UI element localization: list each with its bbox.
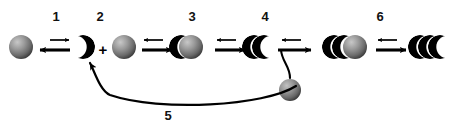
sphere-second <box>112 35 136 59</box>
recycle-arc-path <box>90 63 296 105</box>
recycle-arc-step5 <box>90 63 296 105</box>
crescent-plus-sphere-step3 <box>169 35 203 59</box>
step-label-1: 1 <box>44 9 68 25</box>
step-label-2: 2 <box>88 9 112 25</box>
arrow-pair-3 <box>215 40 245 50</box>
arrow-pair-1 <box>40 40 70 50</box>
step-label-4: 4 <box>253 9 277 25</box>
triple-crescent-final <box>408 35 452 59</box>
sphere-start <box>9 35 33 59</box>
catalytic-cycle-diagram: 1 2 3 4 6 5 + <box>0 0 458 129</box>
arrow-pair-2 <box>142 40 172 50</box>
step-label-5: 5 <box>156 108 180 124</box>
plus-operator: + <box>96 43 110 57</box>
arrow-pair-4 <box>278 40 311 78</box>
double-crescent-with-sphere-step6 <box>322 35 367 59</box>
crescent-step2 <box>71 35 95 59</box>
arrow-pair-5 <box>376 40 406 50</box>
double-crescent-step4 <box>242 35 276 59</box>
step-label-3: 3 <box>180 9 204 25</box>
release-hook <box>281 50 290 78</box>
step-label-6: 6 <box>368 9 392 25</box>
